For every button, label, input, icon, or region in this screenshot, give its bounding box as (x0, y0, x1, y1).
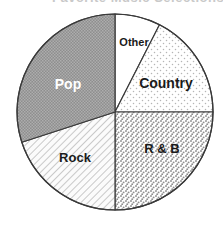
pie-chart-svg: OtherCountryR & BRockPop (0, 0, 223, 226)
pie-slice-label-other: Other (119, 36, 149, 48)
pie-slices-group (17, 14, 213, 210)
pie-slice-label-r-b: R & B (144, 141, 179, 156)
pie-slice-label-rock: Rock (59, 150, 92, 165)
pie-slice-r-b[interactable] (115, 112, 213, 210)
pie-slice-label-pop: Pop (55, 76, 81, 92)
pie-chart-figure: Favorite Music Selections (0, 0, 223, 226)
pie-slice-label-country: Country (139, 75, 193, 91)
